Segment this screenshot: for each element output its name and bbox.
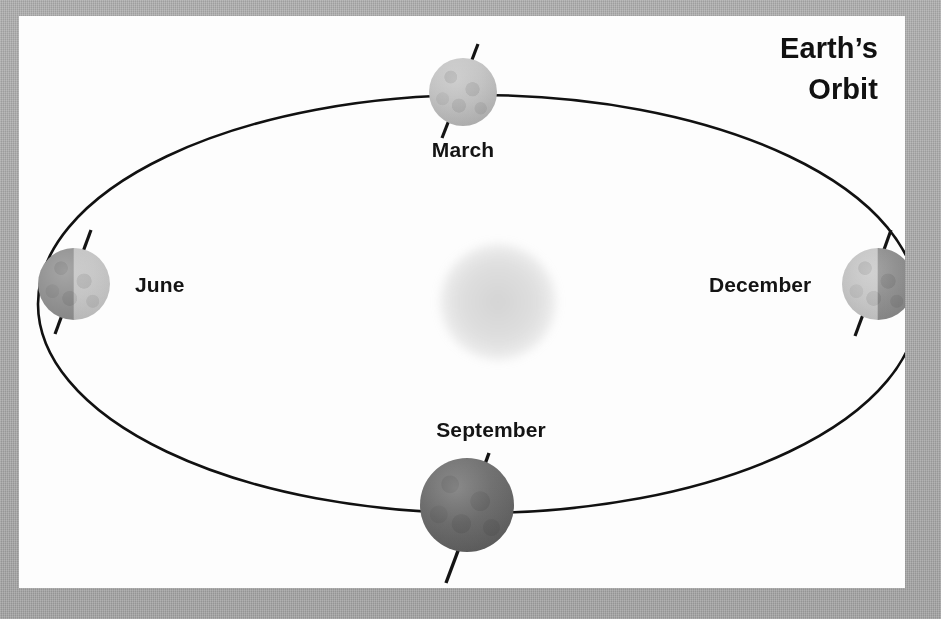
month-label-march: March xyxy=(19,138,905,162)
earth-globe-december xyxy=(842,248,905,320)
month-label-december: December xyxy=(709,273,811,297)
month-label-june: June xyxy=(135,273,184,297)
globe-shading xyxy=(842,248,905,320)
earth-globe-september xyxy=(420,458,514,552)
globe-shading xyxy=(38,248,110,320)
earth-globe-march xyxy=(429,58,497,126)
figure-title: Earth’s Orbit xyxy=(780,28,878,110)
globe-shading xyxy=(429,58,497,126)
figure-title-line-2: Orbit xyxy=(780,69,878,110)
earth-globe-june xyxy=(38,248,110,320)
globe-shading xyxy=(420,458,514,552)
diagram-canvas: Earth’s Orbit March June September Decem… xyxy=(19,16,905,588)
earth-orbit-figure: Earth’s Orbit March June September Decem… xyxy=(0,0,941,619)
figure-title-line-1: Earth’s xyxy=(780,28,878,69)
month-label-september: September xyxy=(19,418,905,442)
sun-icon xyxy=(440,244,556,360)
